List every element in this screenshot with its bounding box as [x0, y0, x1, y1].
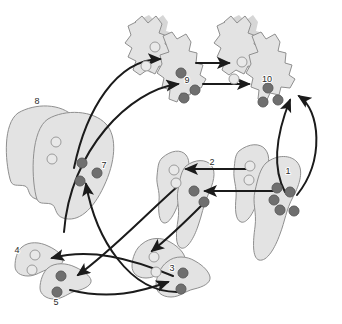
- marker-dark: [273, 95, 283, 105]
- region-label-7: 7: [101, 160, 106, 170]
- marker-dark: [56, 271, 66, 281]
- diagram-canvas: 1 2 3 4 5 7 8 9 10: [0, 0, 342, 324]
- marker-dark: [176, 284, 186, 294]
- marker-dark: [77, 158, 87, 168]
- marker-dark: [178, 268, 188, 278]
- marker-light: [150, 42, 160, 52]
- connectivity-diagram: 1 2 3 4 5 7 8 9 10: [0, 0, 342, 324]
- region-label-4: 4: [14, 245, 19, 255]
- region-label-10: 10: [262, 74, 272, 84]
- marker-dark: [275, 205, 285, 215]
- marker-dark: [52, 287, 62, 297]
- marker-light: [151, 267, 161, 277]
- marker-light: [141, 61, 151, 71]
- marker-light: [229, 74, 239, 84]
- marker-dark: [179, 93, 189, 103]
- marker-light: [169, 165, 179, 175]
- marker-dark: [289, 206, 299, 216]
- marker-dark: [75, 176, 85, 186]
- marker-dark: [263, 83, 273, 93]
- marker-light: [244, 175, 254, 185]
- marker-light: [171, 178, 181, 188]
- region-label-1: 1: [285, 166, 290, 176]
- marker-light: [149, 252, 159, 262]
- marker-light: [30, 250, 40, 260]
- marker-dark: [199, 197, 209, 207]
- marker-dark: [272, 183, 282, 193]
- region-label-8: 8: [34, 96, 39, 106]
- marker-light: [245, 161, 255, 171]
- marker-dark: [189, 186, 199, 196]
- region-label-9: 9: [184, 75, 189, 85]
- marker-light: [237, 57, 247, 67]
- marker-dark: [269, 195, 279, 205]
- marker-dark: [190, 85, 200, 95]
- marker-light: [51, 137, 61, 147]
- region-label-3: 3: [169, 263, 174, 273]
- marker-light: [27, 265, 37, 275]
- region-label-5: 5: [53, 297, 58, 307]
- marker-dark: [258, 97, 268, 107]
- marker-light: [47, 154, 57, 164]
- region-label-2: 2: [209, 157, 214, 167]
- marker-dark: [285, 187, 295, 197]
